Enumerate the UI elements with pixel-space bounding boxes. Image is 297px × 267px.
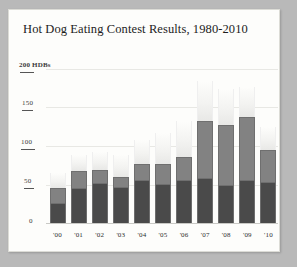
bar-y06: [176, 121, 192, 223]
ytick-rule-100: [21, 149, 35, 150]
bar-segment-lower: [176, 181, 192, 223]
ytick-label-150: 150: [22, 99, 44, 107]
bar-segment-lower: [197, 179, 213, 223]
bar-y03: [113, 155, 129, 223]
bar-segment-lower: [92, 184, 108, 223]
bar-segment-middle: [176, 157, 192, 181]
ytick-label-100: 100: [21, 138, 45, 146]
ytick-rule-200: [20, 72, 34, 73]
bar-segment-middle: [239, 117, 255, 181]
gridline-200: [46, 69, 278, 70]
bar-segment-lower: [155, 185, 171, 223]
bar-segment-lower: [50, 204, 66, 223]
axis-baseline: [46, 223, 278, 224]
bar-segment-middle: [50, 188, 66, 203]
bar-segment-upper: [71, 155, 87, 171]
figure-container: Hot Dog Eating Contest Results, 1980-201…: [0, 0, 297, 267]
bar-y05: [155, 133, 171, 223]
bar-segment-middle: [197, 121, 213, 179]
bar-segment-lower: [134, 181, 150, 223]
plot-area: 200 HDBs 150 100 50 0 '00'01'02'03'04'05…: [9, 10, 281, 253]
bar-y00: [50, 173, 66, 223]
bar-segment-upper: [155, 133, 171, 165]
bar-y09: [239, 87, 255, 223]
xtick-label-y10: '10: [255, 231, 281, 239]
bar-segment-lower: [218, 186, 234, 223]
ytick-label-200: 200 HDBs: [19, 61, 61, 69]
bar-segment-middle: [260, 150, 276, 183]
bar-segment-lower: [239, 181, 255, 223]
bar-y10: [260, 127, 276, 224]
bar-segment-upper: [239, 87, 255, 117]
ytick-label-0: 0: [29, 217, 33, 225]
bar-y08: [218, 89, 234, 223]
ytick-rule-50: [24, 188, 34, 189]
bar-segment-upper: [50, 173, 66, 188]
bar-segment-upper: [176, 121, 192, 157]
bar-segment-lower: [113, 188, 129, 223]
bar-segment-lower: [71, 189, 87, 223]
bar-segment-upper: [134, 140, 150, 165]
bar-y04: [134, 140, 150, 223]
bar-segment-middle: [155, 164, 171, 185]
bar-segment-upper: [197, 81, 213, 121]
bar-y02: [92, 152, 108, 223]
bar-segment-upper: [218, 89, 234, 125]
bar-segment-middle: [71, 171, 87, 189]
bar-segment-middle: [92, 170, 108, 185]
bar-segment-upper: [113, 155, 129, 177]
chart-card: Hot Dog Eating Contest Results, 1980-201…: [8, 9, 280, 252]
bar-segment-middle: [218, 125, 234, 186]
ytick-label-50: 50: [24, 177, 44, 185]
bar-segment-upper: [92, 152, 108, 170]
bar-segment-middle: [134, 164, 150, 181]
bar-y01: [71, 155, 87, 223]
bar-y07: [197, 81, 213, 223]
ytick-rule-150: [22, 110, 33, 111]
bar-segment-upper: [260, 127, 276, 150]
bar-segment-middle: [113, 177, 129, 189]
bar-segment-lower: [260, 183, 276, 223]
